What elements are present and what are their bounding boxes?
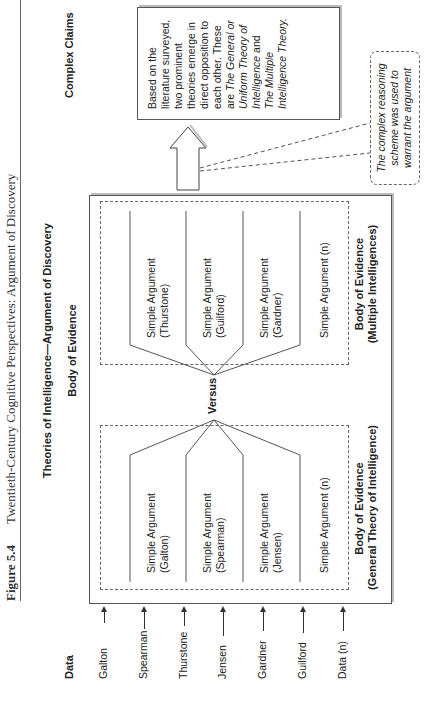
claim-text: Based on the literature surveyed, two pr…: [146, 20, 236, 109]
claim-joiner: and: [250, 35, 262, 55]
reasoning-callout: The complex reasoning scheme was used to…: [370, 51, 420, 185]
argument-of-discovery-figure: Figure 5.4 Twentieth-Century Cognitive P…: [0, 0, 424, 701]
complex-claim-box: Based on the literature surveyed, two pr…: [137, 7, 340, 120]
claim-theory-multiple: The Multiple Intelligence Theory.: [263, 18, 288, 109]
